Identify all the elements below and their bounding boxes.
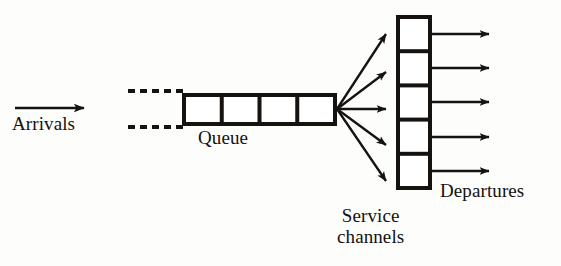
service-channels-label: Servicechannels: [337, 206, 404, 247]
diagram-canvas: [0, 0, 561, 266]
queue-to-service-branches: [337, 34, 386, 181]
departure-arrows: [432, 34, 489, 171]
service-channels-label-line1: Service: [337, 206, 404, 227]
arrivals-label: Arrivals: [12, 114, 75, 135]
departures-label: Departures: [440, 181, 524, 202]
service-channel-boxes: [398, 17, 430, 188]
service-channels-label-line2: channels: [337, 227, 404, 248]
dashed-inflow-lines: [128, 91, 184, 127]
queue-label: Queue: [198, 128, 248, 149]
queueing-diagram: Arrivals Queue Servicechannels Departure…: [0, 0, 561, 266]
queue-boxes: [184, 95, 335, 124]
